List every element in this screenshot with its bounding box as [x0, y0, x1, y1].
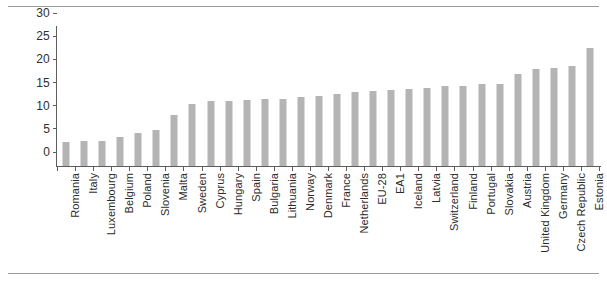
bar: [334, 94, 341, 166]
bar-slot: [346, 27, 364, 166]
bar-slot: [256, 27, 274, 166]
bar-slot: [111, 27, 129, 166]
bar: [261, 99, 268, 166]
x-axis-category-label: Romania: [70, 173, 81, 218]
x-axis-category-label: Hungary: [233, 173, 244, 215]
x-axis-category-label: Luxembourg: [106, 173, 117, 235]
bar: [370, 91, 377, 166]
top-divider-rule: [8, 6, 599, 7]
y-axis-tick-label: 0: [43, 145, 50, 159]
bar-slot: [364, 27, 382, 166]
bar-slot: [545, 27, 563, 166]
x-axis-tick-mark: [93, 167, 94, 171]
bar-slot: [165, 27, 183, 166]
x-axis-category-label: Spain: [251, 173, 262, 202]
y-axis-tick: 15: [36, 76, 57, 90]
y-axis-tick: 10: [36, 99, 57, 113]
plot-area: 051015202530: [57, 27, 599, 166]
x-axis-tick-mark: [491, 167, 492, 171]
bar: [514, 74, 521, 166]
y-axis-tick: 5: [43, 122, 57, 136]
x-axis-category-label: Denmark: [323, 173, 334, 218]
y-axis-tick-label: 30: [36, 6, 50, 20]
y-axis-tick: 0: [43, 145, 57, 159]
x-axis-tick-mark: [527, 167, 528, 171]
x-axis-category-label: Norway: [305, 173, 316, 211]
bar: [496, 84, 503, 166]
x-axis-category-label: Malta: [178, 173, 189, 200]
x-axis-tick-mark: [418, 167, 419, 171]
bar-slot: [418, 27, 436, 166]
x-axis-tick-mark: [256, 167, 257, 171]
x-axis-category-labels: RomaniaItalyLuxembourgBelgiumPolandSlove…: [57, 173, 599, 273]
bar: [297, 97, 304, 166]
y-axis-tick-label: 5: [43, 122, 50, 136]
bar: [478, 84, 485, 166]
x-axis-tick-mark: [220, 167, 221, 171]
bar: [153, 130, 160, 166]
bar: [279, 99, 286, 166]
x-axis-tick-mark: [111, 167, 112, 171]
x-axis-category-label: EA1: [395, 173, 406, 194]
x-axis-category-label: Italy: [88, 173, 99, 194]
x-axis-tick-mark: [147, 167, 148, 171]
bar: [117, 137, 124, 166]
bar-slot: [400, 27, 418, 166]
bar-slot: [454, 27, 472, 166]
x-axis-tick-mark: [292, 167, 293, 171]
x-axis-tick-mark: [165, 167, 166, 171]
y-axis-tick-label: 15: [36, 76, 50, 90]
bar-slot: [220, 27, 238, 166]
bar-slot: [491, 27, 509, 166]
bar: [586, 48, 593, 166]
y-axis-tick: 30: [36, 6, 57, 20]
bar-slot: [473, 27, 491, 166]
bar-slot: [147, 27, 165, 166]
x-axis-tick-mark: [545, 167, 546, 171]
bar-slot: [202, 27, 220, 166]
x-axis-category-label: France: [341, 173, 352, 208]
x-axis-category-label: Iceland: [413, 173, 424, 209]
bar-slot: [563, 27, 581, 166]
x-axis-category-label: EU-28: [377, 173, 388, 205]
bar-chart-figure: 051015202530 RomaniaItalyLuxembourgBelgi…: [0, 0, 607, 284]
x-axis-tick-mark: [509, 167, 510, 171]
x-axis-tick-mark: [454, 167, 455, 171]
bar: [99, 141, 106, 166]
bottom-divider-rule: [8, 273, 599, 274]
bar: [424, 88, 431, 166]
x-axis-tick-mark: [310, 167, 311, 171]
x-axis-tick-mark: [129, 167, 130, 171]
bar: [243, 100, 250, 166]
x-axis-category-label: Austria: [522, 173, 533, 208]
bar: [442, 86, 449, 166]
bar-slot: [274, 27, 292, 166]
y-axis-tick-label: 25: [36, 29, 50, 43]
bar: [189, 104, 196, 166]
x-axis-category-label: Czech Republic: [576, 173, 587, 251]
x-axis-tick-mark: [400, 167, 401, 171]
x-axis-category-label: Finland: [468, 173, 479, 210]
bar: [207, 101, 214, 166]
x-axis-tick-mark: [473, 167, 474, 171]
bar-slot: [382, 27, 400, 166]
x-axis-category-label: Portugal: [486, 173, 497, 215]
x-axis-tick-mark: [57, 167, 58, 171]
bar: [81, 141, 88, 166]
bar: [315, 96, 322, 166]
x-axis-tick-mark: [599, 167, 600, 171]
x-axis-category-label: Sweden: [197, 173, 208, 213]
x-axis-category-label: Bulgaria: [269, 173, 280, 214]
x-axis-tick-mark: [328, 167, 329, 171]
x-axis-tick-mark: [364, 167, 365, 171]
x-axis-category-label: Germany: [558, 173, 569, 219]
x-axis-category-label: Estonia: [594, 173, 605, 210]
bar-slot: [57, 27, 75, 166]
bar: [406, 89, 413, 166]
bar-slot: [581, 27, 599, 166]
y-axis-tick-mark: [53, 13, 57, 14]
bar-series: [57, 27, 599, 166]
x-axis-category-label: United Kingdom: [540, 173, 551, 253]
x-axis-tick-mark: [382, 167, 383, 171]
x-axis-category-label: Netherlands: [359, 173, 370, 233]
